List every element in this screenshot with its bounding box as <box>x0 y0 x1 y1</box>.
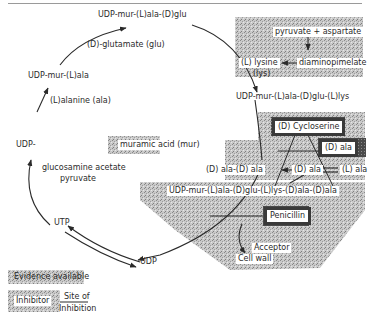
node-pentapeptide: UDP-mur-(L)ala-(D)glu-(L)lys-(D)ala-(D)a… <box>167 186 339 196</box>
legend-inhibitor: Inhibitor <box>14 296 51 306</box>
node-acceptor: Acceptor <box>252 243 291 253</box>
node-lysine: (L) lysine <box>239 58 280 68</box>
node-lys: (lys) <box>253 69 270 79</box>
inhibitor-penicillin: Penicillin <box>267 210 308 222</box>
node-d-ala: (D) ala <box>292 165 323 175</box>
pathway-diagram: UDP-mur-(L)ala-(D)glu (D)-glutamate (glu… <box>0 0 370 321</box>
legend-evidence: Evidence available <box>12 272 91 282</box>
node-utp: UTP <box>54 218 70 228</box>
edge-label-precursors-2: pyruvate <box>60 174 96 184</box>
node-udp-mur-ala-glu: UDP-mur-(L)ala-(D)glu <box>98 10 186 20</box>
node-diaminopimelate: diaminopimelate <box>297 58 368 68</box>
edge-label-precursors-1: glucosamine acetate <box>42 163 126 173</box>
node-d-ala-d-ala: (D) ala-(D) ala <box>204 165 265 175</box>
node-pyruvate-aspartate: pyruvate + aspartate <box>273 27 363 37</box>
legend-site-1: Site of <box>64 292 90 302</box>
node-udp-mur-ala-glu-lys: UDP-mur-(L)ala-(D)glu-(L)lys <box>236 92 349 102</box>
edge-label-glutamate: (D)-glutamate (glu) <box>87 40 165 50</box>
node-udp-end: UDP <box>140 257 157 267</box>
node-l-ala: (L) ala <box>340 165 369 175</box>
inhibitor-cycloserine: (D) Cycloserine <box>275 121 342 133</box>
node-udp: UDP- <box>16 140 36 150</box>
node-udp-mur-ala: UDP-mur-(L)ala <box>28 71 89 81</box>
inhibitor-d-ala: (D) ala <box>322 142 355 154</box>
node-muramic-acid: muramic acid (mur) <box>118 140 202 150</box>
node-cell-wall: Cell wall <box>236 254 273 264</box>
legend-site-2: Inhibition <box>59 304 96 314</box>
edge-label-alanine: (L)alanine (ala) <box>50 96 111 106</box>
